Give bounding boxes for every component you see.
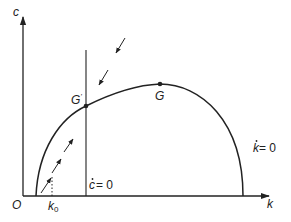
k-dot-zero-label: k = 0 — [253, 140, 276, 155]
g-label: G — [155, 89, 164, 103]
g-prime-label: G' — [71, 92, 82, 107]
y-axis-label: c — [13, 5, 19, 19]
trajectory-arrow-1 — [41, 178, 51, 193]
svg-text:= 0: = 0 — [96, 178, 113, 192]
c-dot-zero-label: c = 0 — [89, 178, 113, 192]
svg-text:= 0: = 0 — [259, 141, 276, 155]
svg-text:c: c — [89, 178, 95, 192]
phase-diagram: c k O k0 G' G c = 0 k = 0 — [0, 0, 291, 222]
trajectory-arrow-3 — [64, 139, 73, 152]
x-axis-label: k — [267, 197, 274, 211]
trajectory-arrow-4 — [116, 38, 125, 53]
origin-label: O — [12, 198, 21, 212]
trajectory-arrow-5 — [99, 70, 108, 85]
point-g-prime — [84, 104, 89, 109]
k0-label: k0 — [48, 199, 59, 214]
point-g — [158, 82, 163, 87]
trajectory-arrow-2 — [52, 159, 61, 173]
k-dot-zero-curve — [36, 84, 243, 196]
